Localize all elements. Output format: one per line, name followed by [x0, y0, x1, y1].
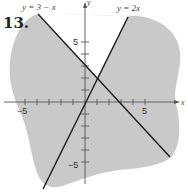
y-axis-name: y: [86, 0, 91, 7]
y-tick-label-5: 5: [73, 37, 78, 47]
x-axis-name: x: [180, 98, 185, 107]
x-tick-label-neg5: −5: [17, 106, 27, 116]
problem-number: 13.: [3, 14, 29, 32]
y-tick-label-neg5: −5: [68, 160, 78, 170]
x-axis-arrow-icon: [174, 100, 180, 104]
graph-figure: 13. y = 3 − x y = 2x x y −5 5 5 −5: [0, 0, 188, 193]
x-tick-label-5: 5: [142, 106, 147, 116]
label-y-equals-2x: y = 2x: [116, 3, 140, 13]
label-y-equals-3-minus-x: y = 3 − x: [21, 2, 56, 12]
